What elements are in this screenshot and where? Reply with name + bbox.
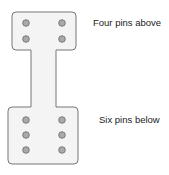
pin-icon (23, 147, 30, 154)
board-outline (8, 12, 78, 164)
bottom-pad-label: Six pins below (99, 114, 160, 125)
pin-icon (59, 147, 66, 154)
top-pad-label: Four pins above (93, 17, 161, 28)
pin-icon (23, 36, 30, 43)
pin-icon (59, 20, 66, 27)
pin-icon (23, 20, 30, 27)
pin-icon (59, 117, 66, 124)
pin-icon (23, 117, 30, 124)
pin-icon (59, 132, 66, 139)
pin-icon (23, 132, 30, 139)
pin-icon (59, 36, 66, 43)
